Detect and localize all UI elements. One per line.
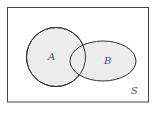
set-b-label: B [103,55,111,66]
universe-label: S [131,85,138,96]
venn-diagram: A B S [0,0,155,113]
set-a-label: A [47,51,55,62]
